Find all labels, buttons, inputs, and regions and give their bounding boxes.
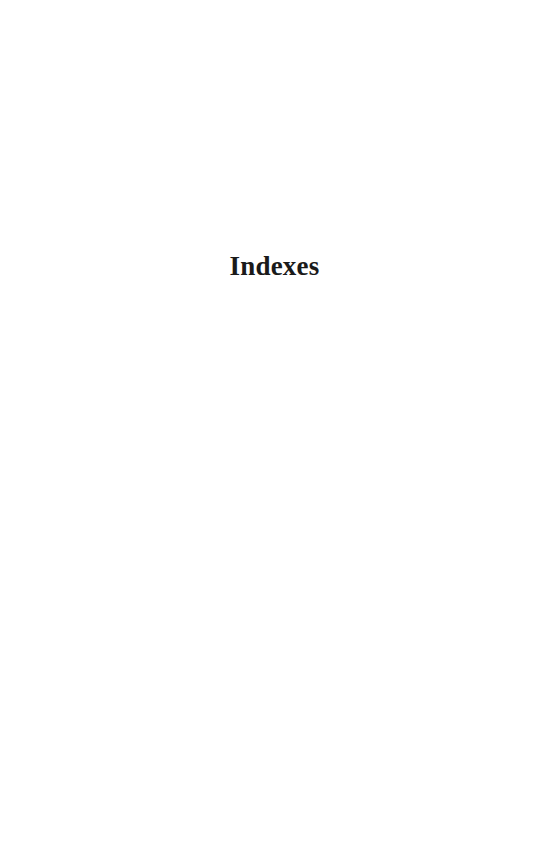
document-page: Indexes	[0, 0, 549, 862]
section-title: Indexes	[0, 248, 549, 284]
